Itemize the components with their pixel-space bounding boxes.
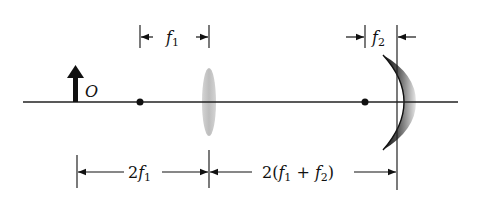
dim-2f1f2-label: 2(f1 + f2) <box>262 163 334 184</box>
f1-label: f1 <box>165 28 179 49</box>
dimension-f1: f1 <box>140 25 209 49</box>
object-label: O <box>85 82 98 101</box>
f2-label: f2 <box>371 28 385 49</box>
focal-point-lens <box>137 99 144 106</box>
focal-point-mirror <box>362 99 369 106</box>
dimension-lens-to-mirror: 2(f1 + f2) <box>210 163 396 184</box>
object-arrow <box>67 65 84 102</box>
dim-2f1-label: 2f1 <box>128 163 151 184</box>
dimension-object-to-lens: 2f1 <box>77 150 209 188</box>
object-arrow-icon <box>73 76 78 102</box>
optics-diagram: O f1 f2 2f1 2(f1 + f2) <box>0 0 480 204</box>
